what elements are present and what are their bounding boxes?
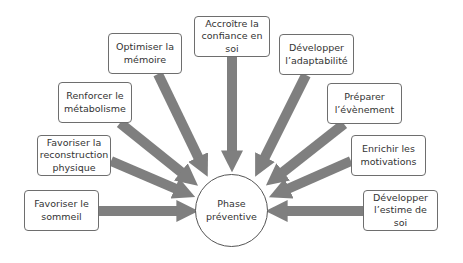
node-label: Renforcer le métabolisme [64, 90, 126, 115]
center-node-phase-preventive: Phase préventive [195, 174, 268, 247]
node-developper-estime: Développer l’estime de soi [363, 190, 438, 231]
arrow-adaptabilite [262, 75, 306, 163]
node-label: Favoriser le sommeil [34, 198, 89, 223]
node-optimiser-memoire: Optimiser la mémoire [108, 33, 182, 74]
node-label: Préparer l’évènement [335, 91, 395, 116]
node-preparer-evenement: Préparer l’évènement [327, 83, 402, 124]
node-favoriser-sommeil: Favoriser le sommeil [24, 190, 99, 231]
node-enrichir-motivations: Enrichir les motivations [351, 135, 426, 176]
node-favoriser-reconstruction: Favoriser la reconstruction physique [37, 135, 111, 176]
node-label: Enrichir les motivations [360, 143, 416, 168]
node-label: Développer l’adaptabilité [285, 42, 347, 67]
node-renforcer-metabolisme: Renforcer le métabolisme [58, 82, 132, 123]
arrow-memoire [158, 74, 201, 163]
node-accroitre-confiance: Accroître la confiance en soi [194, 16, 270, 57]
node-developper-adaptabilite: Développer l’adaptabilité [279, 34, 354, 75]
node-label: Favoriser la reconstruction physique [40, 137, 109, 175]
node-label: Optimiser la mémoire [116, 41, 174, 66]
node-label: Accroître la confiance en soi [202, 18, 263, 56]
node-label: Développer l’estime de soi [366, 192, 435, 230]
